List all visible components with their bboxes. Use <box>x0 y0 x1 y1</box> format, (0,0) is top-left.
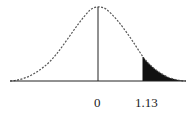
critical-value-label: 1.13 <box>135 96 158 110</box>
shaded-tail <box>143 57 186 81</box>
mean-label: 0 <box>94 96 101 110</box>
